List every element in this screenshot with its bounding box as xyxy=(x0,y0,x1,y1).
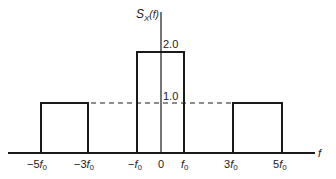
level-label-1: 1.0 xyxy=(163,90,178,102)
left-band-rect xyxy=(41,103,88,153)
tick-label-f0: f0 xyxy=(181,158,189,172)
tick-label-neg3f0: −3f0 xyxy=(74,158,95,172)
diagram-canvas: SX(f) 2.0 1.0 f −5f0 −3f0 −f0 0 f0 3f0 5… xyxy=(0,0,336,179)
tick-label-3f0: 3f0 xyxy=(224,158,238,172)
tick-label-negf0: −f0 xyxy=(128,158,143,172)
tick-label-5f0: 5f0 xyxy=(273,158,287,172)
level-label-2: 2.0 xyxy=(163,38,178,50)
tick-label-neg5f0: −5f0 xyxy=(27,158,48,172)
power-spectral-density-diagram: SX(f) 2.0 1.0 f −5f0 −3f0 −f0 0 f0 3f0 5… xyxy=(0,0,336,179)
x-axis-label: f xyxy=(318,147,322,159)
y-axis-label: SX(f) xyxy=(136,7,159,23)
right-band-rect xyxy=(233,103,282,153)
tick-label-zero: 0 xyxy=(158,158,164,170)
